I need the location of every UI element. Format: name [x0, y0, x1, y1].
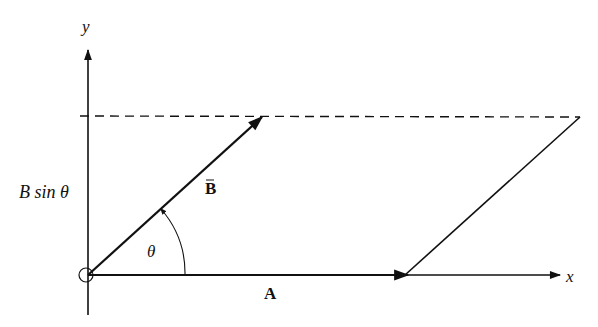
vector-b	[88, 117, 262, 275]
dashed-height-line	[80, 116, 580, 117]
parallelogram-right-side	[405, 117, 580, 275]
angle-label: θ	[147, 242, 155, 261]
vector-b-label: B	[205, 179, 216, 198]
x-axis-label: x	[565, 267, 574, 286]
parallelogram-diagram: y x B A θ B sin θ	[0, 0, 598, 327]
height-label: B sin θ	[19, 182, 69, 202]
angle-arc	[161, 209, 185, 275]
vector-a-label: A	[264, 284, 277, 303]
y-axis-label: y	[80, 17, 90, 36]
